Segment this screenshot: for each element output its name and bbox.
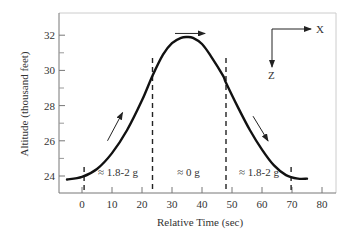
g-load-label: ≈ 1.8-2 g xyxy=(98,166,138,178)
direction-arrows xyxy=(108,33,269,140)
g-annotations: ≈ 1.8-2 g≈ 0 g≈ 1.8-2 g xyxy=(98,166,279,178)
y-tick-label: 30 xyxy=(44,64,56,76)
x-tick-label: 60 xyxy=(257,198,269,210)
x-tick-label: 0 xyxy=(79,198,85,210)
x-tick-label: 30 xyxy=(167,198,179,210)
x-tick-label: 70 xyxy=(287,198,299,210)
x-ticks: 01020304050607080 xyxy=(79,187,328,210)
g-load-label: ≈ 0 g xyxy=(177,166,200,178)
y-tick-label: 24 xyxy=(44,170,56,182)
y-axis-label: Altitude (thousand feet) xyxy=(18,51,31,156)
z-frame-label: Z xyxy=(268,69,275,81)
y-tick-label: 26 xyxy=(44,135,56,147)
coordinate-frame: X Z xyxy=(268,23,324,81)
y-tick-label: 28 xyxy=(44,100,56,112)
y-ticks: 2426283032 xyxy=(44,29,65,182)
y-tick-label: 32 xyxy=(44,29,55,41)
direction-arrow-icon xyxy=(108,113,123,141)
g-load-label: ≈ 1.8-2 g xyxy=(239,166,279,178)
x-axis-label: Relative Time (sec) xyxy=(157,216,243,229)
x-tick-label: 40 xyxy=(197,198,209,210)
x-tick-label: 20 xyxy=(137,198,149,210)
altitude-chart: 2426283032 01020304050607080 Altitude (t… xyxy=(0,0,356,236)
x-frame-label: X xyxy=(316,23,324,35)
x-tick-label: 10 xyxy=(107,198,119,210)
x-tick-label: 50 xyxy=(227,198,239,210)
x-tick-label: 80 xyxy=(317,198,329,210)
altitude-curve xyxy=(67,37,307,180)
